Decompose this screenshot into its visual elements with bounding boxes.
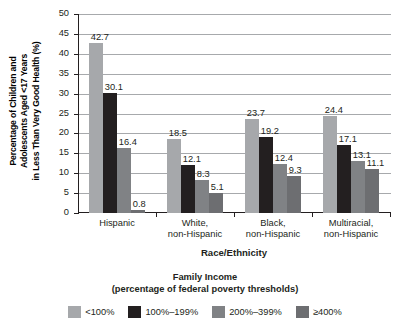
y-axis-tick — [74, 213, 79, 214]
x-axis-title: Race/Ethnicity — [78, 247, 390, 258]
bar-value-label: 0.8 — [133, 200, 146, 209]
bar — [181, 165, 195, 213]
bar — [323, 116, 337, 213]
bar — [287, 176, 301, 213]
chart-figure: Percentage of Children and Adolescents A… — [0, 0, 409, 331]
bar — [351, 161, 365, 213]
bar-value-label: 19.2 — [261, 127, 279, 136]
bar-value-label: 24.4 — [325, 106, 343, 115]
x-axis-category-line: Hispanic — [78, 218, 156, 229]
bar — [117, 148, 131, 213]
x-axis-category-line: non-Hispanic — [234, 229, 312, 240]
x-axis-category-label: White,non-Hispanic — [156, 218, 234, 240]
legend-label: 100%–199% — [145, 307, 198, 317]
x-axis-tick — [312, 213, 313, 217]
bar-value-label: 9.3 — [289, 166, 302, 175]
y-axis-tick-label: 5 — [47, 188, 69, 197]
y-axis-tick-label: 35 — [47, 69, 69, 78]
bar — [167, 139, 181, 213]
bar — [337, 145, 351, 213]
bar — [245, 119, 259, 213]
legend-item[interactable]: 100%–199% — [128, 306, 198, 318]
y-axis-tick-label: 10 — [47, 168, 69, 177]
x-axis-tick — [390, 213, 391, 217]
bar-groups: 42.730.116.40.818.512.18.35.123.719.212.… — [78, 14, 390, 213]
bar-value-label: 16.4 — [119, 138, 137, 147]
x-axis-tick — [234, 213, 235, 217]
bar — [259, 137, 273, 213]
x-axis-category-line: non-Hispanic — [156, 229, 234, 240]
x-axis-category-label: Multiracial,non-Hispanic — [312, 218, 390, 240]
legend-title: Family Income (percentage of federal pov… — [30, 272, 380, 295]
y-axis-tick-label: 45 — [47, 29, 69, 38]
bar-value-label: 30.1 — [105, 83, 123, 92]
x-axis-category-line: White, — [156, 218, 234, 229]
x-axis-category-label: Hispanic — [78, 218, 156, 229]
legend-swatch-icon — [68, 306, 81, 318]
legend-title-line-2: (percentage of federal poverty threshold… — [30, 284, 380, 296]
y-axis-tick-label: 40 — [47, 49, 69, 58]
y-axis-title-line-3: in Less Than Very Good Health (%) — [31, 42, 42, 181]
legend-label: 200%–399% — [229, 307, 282, 317]
x-axis-categories: HispanicWhite,non-HispanicBlack,non-Hisp… — [78, 218, 390, 246]
x-axis-tick — [156, 213, 157, 217]
bar-value-label: 11.1 — [367, 159, 384, 168]
x-axis-category-label: Black,non-Hispanic — [234, 218, 312, 240]
legend-label: <100% — [85, 307, 114, 317]
x-axis-category-line: Multiracial, — [312, 218, 390, 229]
bar-value-label: 12.1 — [183, 155, 201, 164]
legend-item[interactable]: ≥400% — [296, 306, 342, 318]
legend-label: ≥400% — [313, 307, 342, 317]
legend-item[interactable]: 200%–399% — [212, 306, 282, 318]
legend-title-line-1: Family Income — [30, 272, 380, 284]
bar — [209, 193, 223, 213]
y-axis-tick-label: 20 — [47, 128, 69, 137]
bar-value-label: 17.1 — [339, 135, 357, 144]
legend-item[interactable]: <100% — [68, 306, 114, 318]
y-axis-title: Percentage of Children and Adolescents A… — [2, 6, 48, 216]
bar — [365, 169, 379, 213]
y-axis-tick-label: 50 — [47, 9, 69, 18]
x-axis-category-line: non-Hispanic — [312, 229, 390, 240]
bar — [89, 43, 103, 213]
bar-group: 42.730.116.40.8 — [78, 14, 156, 213]
legend-swatch-icon — [128, 306, 141, 318]
legend-swatch-icon — [212, 306, 225, 318]
y-axis-title-line-1: Percentage of Children and — [8, 42, 19, 181]
bar — [103, 93, 117, 213]
bar-value-label: 5.1 — [211, 183, 224, 192]
x-axis-category-line: Black, — [234, 218, 312, 229]
bar — [273, 164, 287, 213]
bar-value-label: 18.5 — [169, 129, 187, 138]
bar-group: 18.512.18.35.1 — [156, 14, 234, 213]
y-axis-tick-label: 15 — [47, 148, 69, 157]
legend-swatch-icon — [296, 306, 309, 318]
legend: <100%100%–199%200%–399%≥400% — [20, 303, 390, 321]
bar-group: 24.417.113.111.1 — [312, 14, 390, 213]
bar — [195, 180, 209, 213]
bar-value-label: 42.7 — [91, 33, 109, 42]
y-axis-tick-label: 25 — [47, 109, 69, 118]
bar-value-label: 12.4 — [275, 154, 293, 163]
bar-value-label: 8.3 — [197, 170, 210, 179]
bar-value-label: 23.7 — [247, 109, 265, 118]
y-axis-tick-label: 0 — [47, 208, 69, 217]
y-axis-tick-label: 30 — [47, 89, 69, 98]
bar-group: 23.719.212.49.3 — [234, 14, 312, 213]
bar — [131, 210, 145, 213]
y-axis-title-line-2: Adolescents Aged <17 Years — [19, 42, 30, 181]
